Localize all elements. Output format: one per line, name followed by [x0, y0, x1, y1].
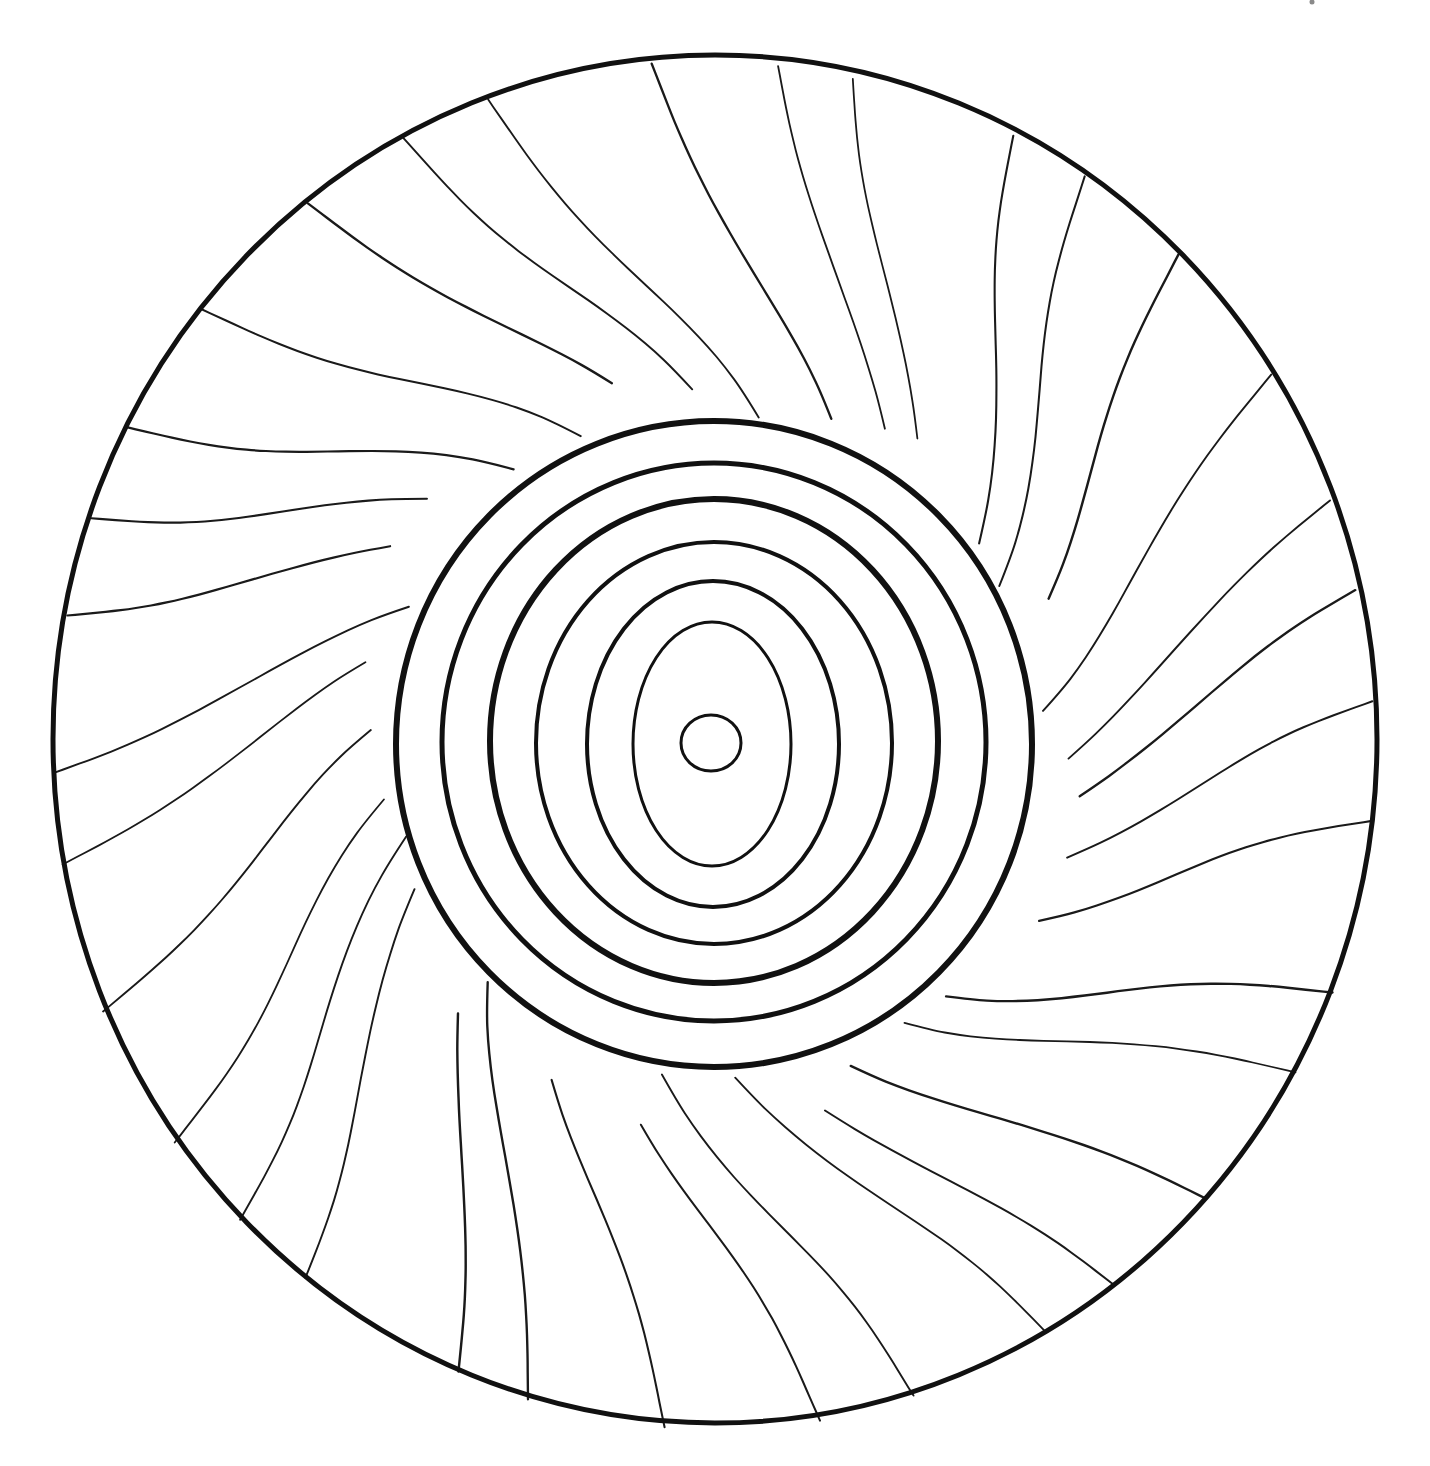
- line-drawing-canvas: [0, 0, 1430, 1466]
- artboard: [0, 0, 1430, 1466]
- paper-background: [0, 0, 1430, 1466]
